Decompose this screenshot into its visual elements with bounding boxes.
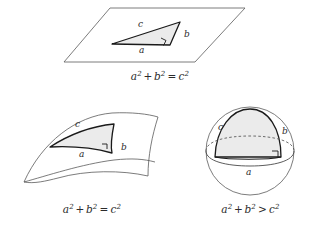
caption-plus: + (232, 203, 244, 215)
caption-plus: + (74, 203, 86, 215)
caption-b: b (154, 70, 161, 82)
pythagorean-geometries-figure: c b a a2+b2=c2 c b a a2+b2=c2 (0, 0, 316, 228)
label-leg-b: b (282, 126, 288, 136)
caption-c-exponent: 2 (275, 203, 280, 211)
caption-operator: = (97, 203, 110, 215)
panel-euclidean-plane: c b a a2+b2=c2 (60, 0, 260, 96)
label-leg-b: b (121, 142, 127, 152)
caption-operator: = (165, 70, 178, 82)
caption-spherical: a2+b2>c2 (185, 203, 316, 215)
label-leg-a: a (79, 149, 84, 159)
label-hypotenuse-c: c (138, 19, 143, 29)
label-hypotenuse-c: c (75, 119, 80, 129)
label-hypotenuse-c: c (218, 122, 223, 132)
label-leg-b: b (184, 29, 190, 39)
hyperbolic-diagram: c b a (2, 100, 182, 200)
panel-hyperbolic-saddle: c b a a2+b2=c2 (2, 100, 182, 228)
caption-b: b (86, 203, 93, 215)
label-leg-a: a (139, 45, 144, 55)
caption-c-exponent: 2 (117, 203, 122, 211)
caption-plus: + (142, 70, 154, 82)
spherical-diagram: c b a (185, 100, 316, 200)
caption-hyperbolic: a2+b2=c2 (2, 203, 182, 215)
caption-operator: > (256, 203, 269, 215)
caption-c-exponent: 2 (185, 70, 190, 78)
euclidean-diagram: c b a (60, 0, 260, 70)
caption-euclidean: a2+b2=c2 (60, 70, 260, 82)
panel-spherical-sphere: c b a a2+b2>c2 (185, 100, 316, 228)
label-leg-a: a (246, 167, 251, 177)
